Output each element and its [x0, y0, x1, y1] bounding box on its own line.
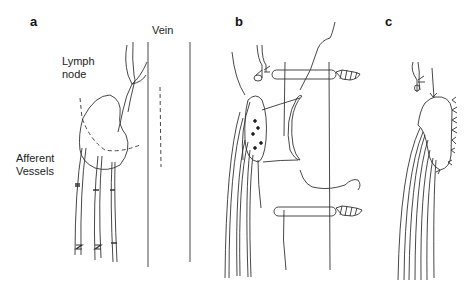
diagram-figure: a b c Vein Lymph node Afferent Vessels — [0, 0, 469, 292]
vein-wall-left — [284, 62, 285, 136]
lymph-node-shape — [245, 96, 267, 162]
ligature-top — [272, 70, 336, 79]
vein-dashed-line — [160, 87, 161, 167]
vein-wall-right — [329, 62, 330, 270]
panel-a-drawing — [75, 42, 190, 267]
lymph-node-shape — [79, 95, 128, 169]
panel-c-drawing — [398, 62, 457, 280]
diagram-drawing — [0, 0, 469, 292]
dashed-outline — [80, 98, 140, 151]
vein-opening — [288, 95, 302, 160]
panel-b-drawing — [225, 22, 362, 278]
